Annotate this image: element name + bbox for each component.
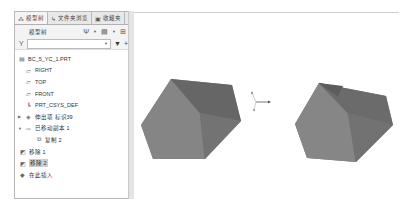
part-icon: ▤ [18,55,25,62]
show-icon[interactable]: ▤ [101,28,108,36]
remove-icon: ◩ [19,160,26,167]
solid-model-left [140,75,245,165]
tree-item[interactable]: ▶ ◈ 伸出项 标识39 [15,111,132,123]
expand-icon[interactable]: ▶ [18,114,22,119]
chevron-down-icon[interactable]: ▼ [93,29,97,34]
chevron-down-icon[interactable]: ▼ [114,40,121,47]
tree-item[interactable]: ◩ 移除 1 [15,146,132,158]
datum-plane-icon: ▱ [25,90,32,97]
tree-item[interactable]: ┗ PRT_CSYS_DEF [15,99,132,111]
divider [130,12,399,13]
panel-tabs: ⁂ 模型树 ↳ 文件夹浏览 ▣ 收藏夹 [15,12,132,25]
panel-scrollbar[interactable] [128,11,134,199]
tab-folder-browser[interactable]: ↳ 文件夹浏览 [48,12,92,24]
moved-copy-icon: ⇨ [25,125,32,132]
tree-item[interactable]: ▱ FRONT [15,88,132,100]
tree-item[interactable]: ◆ 在此插入 [15,169,132,181]
datum-plane-icon: ▱ [25,78,32,85]
remove-icon: ◩ [19,148,26,155]
extrude-icon: ◈ [25,113,32,120]
coordinate-triad-icon [248,90,272,116]
csys-icon: ┗ [25,102,32,109]
tree-item-selected[interactable]: ◩ 移除 2 [15,157,132,169]
search-row: Y ▼ ▼ + [15,38,132,50]
tab-model-tree[interactable]: ⁂ 模型树 [15,12,48,24]
chevron-down-icon[interactable]: ▼ [112,29,116,34]
tree-root[interactable]: ▤ BC_5_YC_1.PRT [15,53,132,65]
chevron-down-icon[interactable]: ▼ [104,41,108,46]
insert-here-icon: ◆ [19,171,26,178]
folder-browser-icon: ↳ [51,15,56,22]
tree-item[interactable]: ▼ ⇨ 已移动副本 1 [15,123,132,135]
tree-filter-icon[interactable]: ⊞ [120,28,126,36]
filter-icon[interactable]: Y [19,40,24,47]
datum-plane-icon: ▱ [25,67,32,74]
favorites-icon: ▣ [95,15,101,22]
search-input[interactable]: ▼ [27,39,111,49]
panel-title: 模型树 [21,28,79,36]
tree-item[interactable]: ⧉ 复制 2 [15,134,132,146]
model-tree: ▤ BC_5_YC_1.PRT ▱ RIGHT ▱ TOP ▱ FRONT ┗ … [15,50,132,181]
copy-icon: ⧉ [35,136,42,143]
tree-toolbar: 模型树 Ψ ▼ ▤ ▼ ⊞ [15,25,132,38]
solid-model-right [293,80,398,165]
tab-favorites[interactable]: ▣ 收藏夹 [92,12,125,24]
collapse-icon[interactable]: ▼ [18,126,22,131]
tree-item[interactable]: ▱ RIGHT [15,65,132,77]
tree-item[interactable]: ▱ TOP [15,76,132,88]
tree-settings-icon[interactable]: Ψ [83,28,89,35]
model-tree-panel: ⁂ 模型树 ↳ 文件夹浏览 ▣ 收藏夹 模型树 Ψ ▼ ▤ ▼ ⊞ Y ▼ ▼ … [14,11,133,199]
model-tree-icon: ⁂ [18,15,24,22]
